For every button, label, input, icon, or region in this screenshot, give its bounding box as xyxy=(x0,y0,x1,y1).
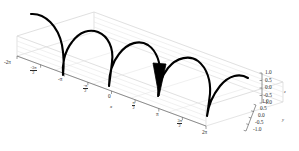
z-tick-label-0.0: 0.0 xyxy=(265,85,272,90)
plot-3d-parametric-curve: -2π -3π 2 -π -π 2 0 π 2 π 3π 2 2π xyxy=(0,0,299,151)
x-tick-label-0: 0 xyxy=(108,94,111,99)
y-tick-0 xyxy=(254,104,256,105)
x-tick-label-pi-2: π 2 xyxy=(132,101,135,111)
direction-arrow-icon xyxy=(153,63,166,96)
y-tick-label-1.0: 1.0 xyxy=(262,99,269,104)
y-tick-2 xyxy=(249,117,251,118)
y-tick-1 xyxy=(251,111,253,112)
x-tick-label-2pi: 2π xyxy=(202,130,207,135)
arrowhead-shape xyxy=(153,63,166,96)
parametric-curve xyxy=(31,14,248,116)
y-tick-4 xyxy=(244,130,246,131)
y-tick-label-0.0: 0.0 xyxy=(258,113,265,118)
y-tick-label--0.5: -0.5 xyxy=(255,120,264,125)
gridline-depth-3 xyxy=(131,74,208,98)
x-tick-label--3pi-2: -3π 2 xyxy=(30,66,37,76)
x-tick-label-pi: π xyxy=(156,112,159,117)
y-tick-label--1.0: -1.0 xyxy=(253,127,262,132)
z-tick-label-0.5: 0.5 xyxy=(265,78,272,83)
x-tick-label--pi-2: -π 2 xyxy=(83,84,88,94)
fraction-pi-over-2: π 2 xyxy=(132,101,135,111)
fraction-neg-3pi-over-2: -3π 2 xyxy=(30,66,37,76)
gridline-back-1 xyxy=(94,17,283,87)
fraction-3pi-over-2: 3π 2 xyxy=(177,119,182,129)
curve-path xyxy=(31,14,248,116)
fraction-neg-pi-over-2: -π 2 xyxy=(83,84,88,94)
x-tick-label--2pi: -2π xyxy=(4,60,11,65)
y-axis-label: y xyxy=(282,118,284,123)
y-tick-label-0.5: 0.5 xyxy=(260,106,267,111)
z-tick-label-1.0: 1.0 xyxy=(265,70,272,75)
x-tick-label-3pi-2: 3π 2 xyxy=(177,119,182,129)
z-axis-label: z xyxy=(284,90,286,95)
y-tick-3 xyxy=(246,124,248,125)
gridline-back-3 xyxy=(94,27,283,97)
x-tick-label--pi: -π xyxy=(58,77,62,82)
x-axis-label: x xyxy=(110,104,112,109)
